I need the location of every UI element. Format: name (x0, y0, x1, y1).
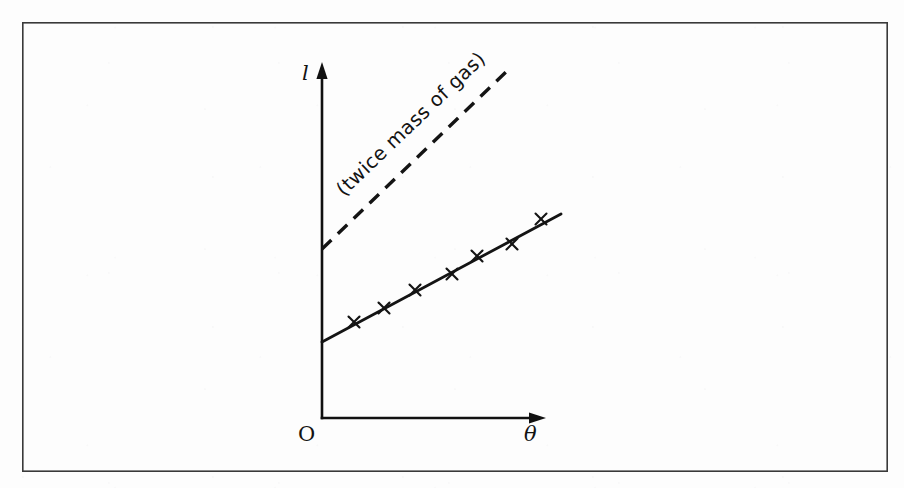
y-axis-label: l (302, 61, 309, 85)
series-twice-mass-of-gas (322, 69, 509, 249)
data-point-marker (536, 214, 547, 225)
origin-label: O (298, 422, 315, 446)
dashed-trend-line (322, 69, 509, 249)
series-measured-data (322, 214, 561, 343)
best-fit-line (322, 214, 561, 342)
x-axis-label: θ (524, 422, 537, 446)
physics-graph: (twice mass of gas) (0, 0, 904, 488)
y-axis-arrowhead (316, 62, 327, 79)
figure-container: (twice mass of gas) (0, 0, 904, 488)
annotation-label: (twice mass of gas) (332, 47, 491, 200)
annotation-twice-mass-of-gas: (twice mass of gas) (332, 47, 491, 200)
